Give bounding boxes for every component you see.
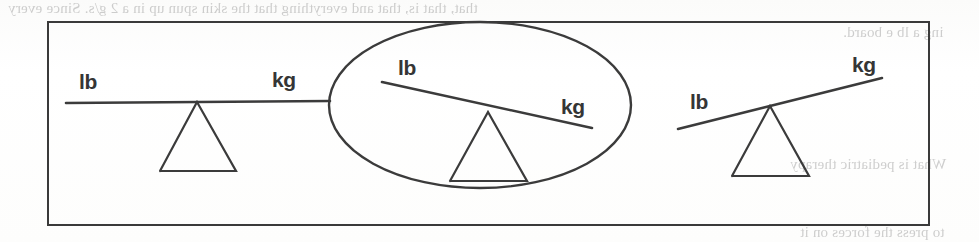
scale-2-right-unit-label: kg (561, 96, 585, 117)
scale-1-fulcrum-triangle (160, 102, 236, 171)
scale-1-right-unit-label: kg (272, 69, 296, 90)
scale-3-beam (678, 78, 882, 129)
scale-2-left-unit-label: lb (398, 57, 416, 78)
scale-3-group (678, 78, 882, 176)
highlight-ellipse (329, 22, 631, 188)
scale-3-fulcrum-triangle (732, 106, 809, 176)
scale-3-right-unit-label: kg (852, 54, 876, 75)
scale-1-left-unit-label: lb (79, 71, 97, 92)
scale-2-fulcrum-triangle (450, 112, 527, 181)
scale-1-group (66, 101, 330, 171)
balance-scales-drawing (0, 0, 979, 242)
scale-3-left-unit-label: lb (690, 91, 708, 112)
